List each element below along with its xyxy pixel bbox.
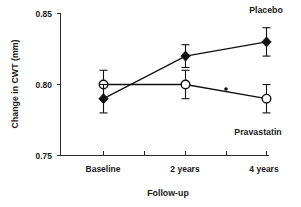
- pravastatin-point-2years: [181, 80, 190, 89]
- y-tick-label-top: 0.85: [35, 9, 52, 19]
- pravastatin-point-4years: [262, 94, 271, 103]
- placebo-point-2years: [181, 51, 190, 61]
- series-label-pravastatin: Pravastatin: [234, 127, 281, 137]
- chart-figure: 0.85 0.80 0.75 Baseline 2 years 4 years …: [0, 0, 301, 207]
- x-tick-label-4years: 4 years: [249, 164, 279, 174]
- placebo-point-baseline: [99, 94, 108, 104]
- x-tick-label-baseline: Baseline: [86, 164, 121, 174]
- y-tick-label-bottom: 0.75: [35, 151, 52, 161]
- significance-marker-icon: [224, 87, 228, 91]
- y-tick-label-mid: 0.80: [35, 80, 52, 90]
- series-label-placebo: Placebo: [249, 5, 283, 15]
- x-axis-title: Follow-up: [147, 188, 189, 198]
- placebo-point-4years: [262, 37, 271, 47]
- x-tick-label-2years: 2 years: [170, 164, 200, 174]
- y-axis-title: Change in CWT (mm): [10, 39, 20, 128]
- line-chart: 0.85 0.80 0.75 Baseline 2 years 4 years …: [0, 0, 301, 207]
- series-pravastatin: [99, 70, 271, 113]
